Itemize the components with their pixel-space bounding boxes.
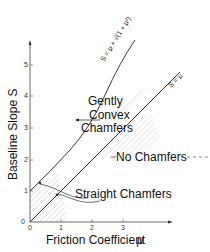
region-gently-convex-chamfers: Gently Convex Chamfers xyxy=(81,94,133,135)
y-axis-arrow-icon xyxy=(29,40,32,45)
y-tick-1: 1 xyxy=(24,187,28,194)
convex-label: Convex xyxy=(89,108,130,122)
mu-symbol: μ xyxy=(136,233,144,247)
lower-line-equation: S = μ xyxy=(167,72,184,89)
straight-chamfer-marker-upper xyxy=(39,182,42,185)
y-tick-4: 4 xyxy=(24,92,28,99)
y-axis-label: Baseline Slope S xyxy=(6,89,20,180)
x-axis-label: Friction Coefficient xyxy=(46,233,146,247)
x-tick-0: 0 xyxy=(28,224,32,231)
x-tick-2: 2 xyxy=(90,224,94,231)
region-no-chamfers: No Chamfers xyxy=(111,150,210,164)
straight-chamfers-label: Straight Chamfers xyxy=(75,187,172,201)
y-tick-2: 2 xyxy=(24,156,28,163)
x-tick-1: 1 xyxy=(59,224,63,231)
y-tick-labels: 0 1 2 3 4 5 xyxy=(21,61,28,225)
y-tick-3: 3 xyxy=(24,124,28,131)
gently-convex-arrow-icon xyxy=(75,119,79,122)
straight-chamfer-marker-lower xyxy=(56,194,59,197)
x-tick-3: 3 xyxy=(121,224,125,231)
upper-curve-equation: S = μ + √(1 + μ²) xyxy=(99,15,133,63)
no-chamfers-label: No Chamfers xyxy=(116,150,187,164)
y-tick-0: 0 xyxy=(21,218,25,225)
y-tick-5: 5 xyxy=(24,61,28,68)
x-tick-labels: 0 1 2 3 xyxy=(28,224,125,231)
gently-label: Gently xyxy=(88,94,123,108)
chamfers-label: Chamfers xyxy=(81,121,133,135)
x-axis-arrow-icon xyxy=(168,221,173,224)
chamfer-regime-diagram: 0 1 2 3 4 5 0 1 2 3 Friction Coefficient… xyxy=(0,0,210,252)
